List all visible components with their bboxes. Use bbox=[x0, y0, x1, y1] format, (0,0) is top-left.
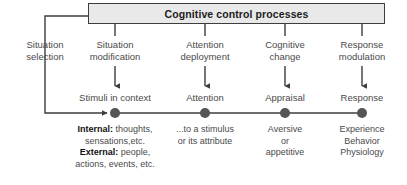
strategy-line-1: Situation bbox=[67, 39, 163, 51]
strategy-response-modulation: Response modulation bbox=[314, 39, 407, 62]
strategy-line-2: modification bbox=[67, 51, 163, 63]
strategy-line-2: modulation bbox=[314, 51, 407, 63]
cognitive-control-processes-box: Cognitive control processes bbox=[88, 3, 385, 24]
detail-line: Physiology bbox=[287, 147, 407, 159]
detail-line-rest: Behavior bbox=[344, 136, 380, 146]
detail-line: Experience bbox=[287, 124, 407, 136]
strategy-to-stage-arrows bbox=[115, 66, 362, 86]
timeline-node-response bbox=[357, 108, 367, 118]
detail-line-rest: Experience bbox=[339, 124, 384, 134]
timeline-node-appraisal bbox=[280, 108, 290, 118]
process-model-diagram: Cognitive control processes Situation se… bbox=[0, 0, 407, 185]
detail-line-rest: actions, events, etc. bbox=[75, 159, 155, 169]
strategy-situation-modification: Situation modification bbox=[67, 39, 163, 62]
detail-line-rest: Physiology bbox=[340, 147, 384, 157]
timeline-node-attention bbox=[200, 108, 210, 118]
detail-response: Experience Behavior Physiology bbox=[287, 124, 407, 159]
cognitive-control-processes-title: Cognitive control processes bbox=[165, 8, 309, 20]
detail-line-rest: people, bbox=[118, 147, 150, 157]
detail-line-bold: Internal: bbox=[77, 124, 113, 134]
detail-line: Behavior bbox=[287, 136, 407, 148]
detail-line-bold: External: bbox=[80, 147, 119, 157]
detail-line: External: people, bbox=[40, 147, 190, 159]
control-box-stems bbox=[115, 24, 362, 36]
timeline-node-stimuli bbox=[110, 108, 120, 118]
strategy-line-1: Response bbox=[314, 39, 407, 51]
detail-line: actions, events, etc. bbox=[40, 159, 190, 171]
stage-label-response: Response bbox=[302, 92, 407, 103]
